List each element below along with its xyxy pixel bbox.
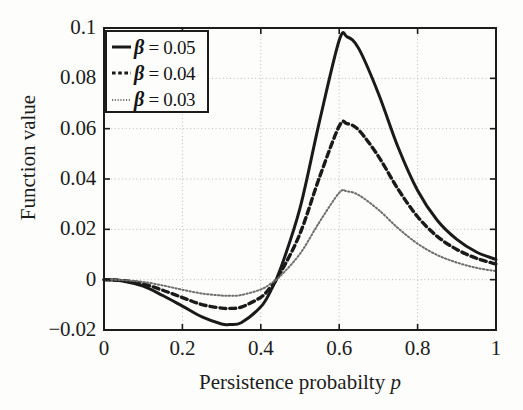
y-tick-label: 0.1 bbox=[70, 15, 96, 40]
x-tick-label: 0.8 bbox=[378, 336, 458, 361]
x-tick-label: 1 bbox=[456, 336, 523, 361]
legend-item-1-value: = 0.04 bbox=[144, 63, 195, 84]
legend-item-0-label: β = 0.05 bbox=[134, 36, 195, 59]
legend-item-1: β = 0.04 bbox=[107, 60, 207, 86]
solid-line-sample bbox=[111, 40, 132, 54]
dotted-line-sample bbox=[111, 92, 132, 106]
y-tick-label: 0.08 bbox=[60, 65, 96, 90]
legend: β = 0.05 β = 0.04 β = 0.03 bbox=[105, 30, 209, 113]
y-tick-label: 0.04 bbox=[60, 166, 96, 191]
y-tick-label: 0.06 bbox=[60, 116, 96, 141]
legend-item-2-value: = 0.03 bbox=[144, 89, 195, 110]
x-tick-label: 0 bbox=[64, 336, 144, 361]
beta-symbol: β bbox=[134, 36, 144, 58]
dashed-line-sample bbox=[111, 66, 132, 80]
x-tick-label: 0.2 bbox=[142, 336, 222, 361]
chart-figure: Function value Persistence probabilty p … bbox=[0, 0, 523, 410]
y-tick-label: 0.02 bbox=[60, 216, 96, 241]
y-tick-label: 0 bbox=[86, 267, 96, 292]
beta-symbol: β bbox=[134, 88, 144, 110]
curve-beta-0.04 bbox=[104, 121, 496, 308]
legend-item-2: β = 0.03 bbox=[107, 86, 207, 112]
legend-item-1-label: β = 0.04 bbox=[134, 62, 195, 85]
legend-item-0: β = 0.05 bbox=[107, 34, 207, 60]
legend-item-2-label: β = 0.03 bbox=[134, 88, 195, 111]
x-tick-label: 0.4 bbox=[221, 336, 301, 361]
legend-item-0-value: = 0.05 bbox=[144, 37, 195, 58]
beta-symbol: β bbox=[134, 62, 144, 84]
x-tick-label: 0.6 bbox=[299, 336, 379, 361]
